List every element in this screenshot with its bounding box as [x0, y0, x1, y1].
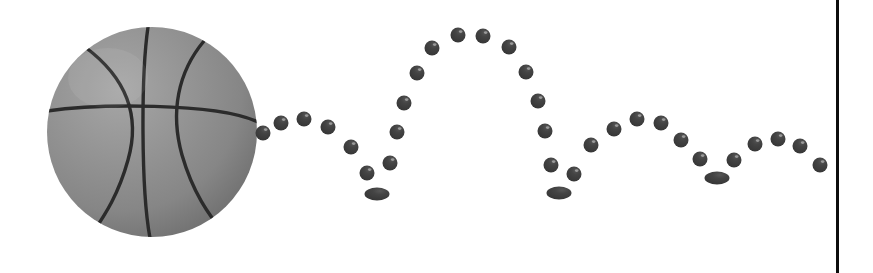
trail-dot-highlight	[756, 139, 760, 142]
trail-dot	[567, 167, 582, 182]
trail-dot	[360, 166, 375, 181]
trail-dot	[693, 152, 708, 167]
trail-dot-highlight	[801, 141, 805, 144]
trail-dot	[297, 112, 312, 127]
trail-dot	[476, 29, 491, 44]
trail-dot	[321, 120, 336, 135]
trail-dot	[451, 28, 466, 43]
trail-dot-highlight	[398, 127, 402, 130]
trail-dot-highlight	[735, 155, 739, 158]
trail-dot-highlight	[391, 158, 395, 161]
trail-dot-highlight	[546, 126, 550, 129]
trail-dot-squashed	[705, 172, 730, 185]
trail-dot	[256, 126, 271, 141]
right-boundary-line	[836, 0, 839, 273]
trail-dot-highlight	[821, 160, 825, 163]
trail-dot	[654, 116, 669, 131]
trail-dot-highlight	[305, 114, 309, 117]
trail-dot-highlight	[484, 31, 488, 34]
trail-dot-highlight	[352, 142, 356, 145]
trail-dot	[771, 132, 786, 147]
trail-dot-highlight	[527, 67, 531, 70]
trail-dot-highlight	[418, 68, 422, 71]
trail-dot-highlight	[368, 168, 372, 171]
trail-dot-highlight	[510, 42, 514, 45]
trail-dot-squashed	[365, 188, 390, 201]
trail-dot	[274, 116, 289, 131]
trail-dot-highlight	[662, 118, 666, 121]
trail-dot	[813, 158, 828, 173]
trail-dot-highlight	[264, 128, 268, 131]
trail-dot	[397, 96, 412, 111]
trail-dot	[538, 124, 553, 139]
scene-canvas	[0, 0, 873, 273]
trail-dot-highlight	[592, 140, 596, 143]
trail-dot	[502, 40, 517, 55]
trail-dot	[748, 137, 763, 152]
trail-dot-highlight	[638, 114, 642, 117]
trail-dot-highlight	[282, 118, 286, 121]
trail-dot	[390, 125, 405, 140]
trail-dot-highlight	[433, 43, 437, 46]
trail-dot-highlight	[779, 134, 783, 137]
trail-dot	[544, 158, 559, 173]
trail-dot-squashed	[547, 187, 572, 200]
trail-dot-highlight	[575, 169, 579, 172]
trail-dot	[727, 153, 742, 168]
trail-dot	[607, 122, 622, 137]
trail-dot-highlight	[701, 154, 705, 157]
trail-dot-highlight	[459, 30, 463, 33]
trail-dot-highlight	[682, 135, 686, 138]
trail-dot	[584, 138, 599, 153]
trail-dot	[410, 66, 425, 81]
trail-dot	[674, 133, 689, 148]
trail-dot	[344, 140, 359, 155]
trail-dot-highlight	[329, 122, 333, 125]
basketball-highlight	[68, 48, 148, 108]
trail-dot-highlight	[405, 98, 409, 101]
trail-dot-highlight	[615, 124, 619, 127]
trail-dot	[383, 156, 398, 171]
motion-diagram	[0, 0, 873, 273]
trail-dot	[531, 94, 546, 109]
trail-dot	[630, 112, 645, 127]
trail-dot-highlight	[552, 160, 556, 163]
trail-dot	[519, 65, 534, 80]
trail-dot-highlight	[539, 96, 543, 99]
trail-dot	[425, 41, 440, 56]
trail-dot	[793, 139, 808, 154]
